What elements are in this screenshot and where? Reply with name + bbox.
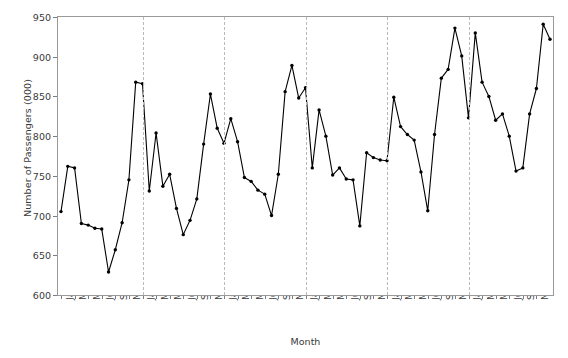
data-point [100,227,103,230]
y-tick-label: 750 [11,170,51,181]
data-point [290,64,293,67]
data-point [514,169,517,172]
data-point [134,80,137,83]
data-point [508,134,511,137]
data-point [372,156,375,159]
y-tick-label: 950 [11,12,51,23]
data-point [433,133,436,136]
data-point [548,38,551,41]
data-point [59,210,62,213]
data-point [419,170,422,173]
data-point [182,233,185,236]
gridline-year-boundary [387,17,388,295]
plot-area [57,16,554,296]
data-point [256,188,259,191]
data-point [453,26,456,29]
data-point [86,223,89,226]
y-tick-label: 650 [11,250,51,261]
data-point [209,92,212,95]
data-point [277,173,280,176]
data-point [358,224,361,227]
data-point [243,176,246,179]
data-point [127,178,130,181]
data-point [521,166,524,169]
data-point [345,177,348,180]
data-point [501,112,504,115]
y-tick-label: 700 [11,210,51,221]
y-tick-label: 900 [11,51,51,62]
data-point [351,178,354,181]
data-point [535,87,538,90]
data-point [426,209,429,212]
data-point [480,80,483,83]
data-point [487,95,490,98]
data-point [446,68,449,71]
data-point [107,270,110,273]
data-point [542,22,545,25]
data-point [168,173,171,176]
data-point [263,192,266,195]
data-point [311,166,314,169]
data-point [73,166,76,169]
y-tick-label: 850 [11,91,51,102]
data-point [66,165,69,168]
data-point [399,125,402,128]
data-point [317,108,320,111]
data-point [406,133,409,136]
data-point [460,54,463,57]
data-point [229,117,232,120]
x-axis-title: Month [57,336,554,347]
data-point [338,166,341,169]
data-point [379,158,382,161]
data-point [331,173,334,176]
data-point [324,134,327,137]
data-point [297,96,300,99]
data-point [148,189,151,192]
gridline-year-boundary [306,17,307,295]
data-point [412,138,415,141]
data-point [216,127,219,130]
plot-inner [58,17,553,295]
gridline-year-boundary [143,17,144,295]
data-point [528,112,531,115]
y-tick-label: 800 [11,131,51,142]
data-point [188,219,191,222]
data-point [474,31,477,34]
data-point [161,184,164,187]
gridline-year-boundary [224,17,225,295]
data-point [80,222,83,225]
y-tick-label: 600 [11,290,51,301]
data-point [93,227,96,230]
data-point [270,214,273,217]
data-point [283,90,286,93]
data-point [120,221,123,224]
data-point [440,76,443,79]
data-point [175,207,178,210]
data-point [392,96,395,99]
data-point [154,131,157,134]
data-point [202,142,205,145]
data-point [195,197,198,200]
data-point [249,180,252,183]
data-point [365,151,368,154]
line-chart: Number of Passengers (000) 6006507007508… [0,0,568,358]
gridline-year-boundary [469,17,470,295]
data-point [494,119,497,122]
data-point [114,248,117,251]
data-point [236,140,239,143]
